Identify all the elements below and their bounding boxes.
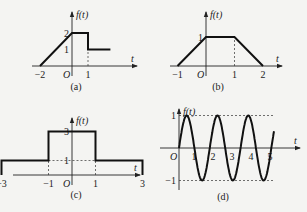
y-axis-label: f(t) bbox=[210, 9, 223, 21]
x-axis-label: t bbox=[134, 162, 137, 173]
x-tick-label: −3 bbox=[0, 178, 7, 189]
subplot-caption: (a) bbox=[70, 81, 81, 93]
x-axis-label: t bbox=[294, 135, 297, 146]
subplot-c: f(t)tO−3−11331(c) bbox=[0, 115, 145, 201]
x-tick-label: 3 bbox=[140, 178, 145, 189]
origin-label: O bbox=[197, 69, 204, 80]
subplot-b: f(t)tO−1121(b) bbox=[170, 9, 282, 93]
signal-curve bbox=[40, 33, 110, 66]
origin-label: O bbox=[170, 151, 177, 162]
y-tick-label: 1 bbox=[64, 44, 69, 55]
y-tick-label: 1 bbox=[64, 155, 69, 166]
subplot-caption: (b) bbox=[212, 81, 224, 93]
signal-figure: f(t)tO−2121(a) f(t)tO−1121(b) f(t)tO−3−1… bbox=[0, 0, 307, 212]
x-tick-label: 2 bbox=[261, 69, 266, 80]
x-axis-label: t bbox=[276, 53, 279, 64]
x-tick-label: 3 bbox=[230, 151, 235, 162]
y-axis-label: f(t) bbox=[76, 9, 89, 21]
x-tick-label: 2 bbox=[211, 151, 216, 162]
x-tick-label: 1 bbox=[232, 69, 237, 80]
x-tick-label: −1 bbox=[172, 69, 183, 80]
y-tick-label: 1 bbox=[171, 110, 176, 121]
x-tick-label: −2 bbox=[35, 69, 46, 80]
y-axis-label: f(t) bbox=[76, 115, 89, 127]
y-tick-label: −1 bbox=[165, 175, 176, 186]
x-tick-label: 4 bbox=[249, 151, 254, 162]
x-tick-label: 1 bbox=[86, 69, 91, 80]
origin-label: O bbox=[63, 178, 70, 189]
x-tick-label: 1 bbox=[93, 178, 98, 189]
subplot-d: f(t)tO123451−1(d) bbox=[160, 106, 300, 203]
subplot-a: f(t)tO−2121(a) bbox=[32, 9, 137, 93]
x-axis-label: t bbox=[131, 53, 134, 64]
x-tick-label: −1 bbox=[43, 178, 54, 189]
origin-label: O bbox=[63, 69, 70, 80]
signal-curve bbox=[178, 37, 264, 66]
subplot-caption: (c) bbox=[70, 189, 81, 201]
subplot-caption: (d) bbox=[217, 191, 229, 203]
